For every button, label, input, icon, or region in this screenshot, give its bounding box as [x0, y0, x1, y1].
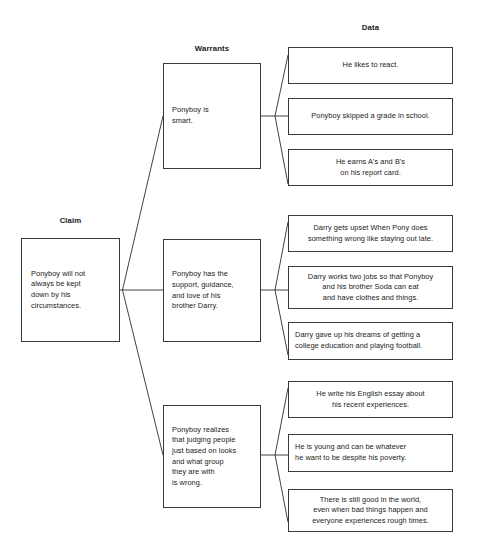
data-box-1-1-text: He likes to react. [295, 60, 446, 71]
data-box-3-3[interactable]: There is still good in the world, even w… [288, 489, 453, 532]
data-box-2-3-text: Darry gave up his dreams of getting a co… [295, 330, 446, 351]
connector-warrant-1-to-data-1 [275, 55, 288, 116]
claim-box-text: Ponyboy will not always be kept down by … [31, 269, 110, 311]
warrant-box-1[interactable]: Ponyboy is smart. [163, 63, 261, 169]
connector-warrant-3-to-data-3 [275, 455, 288, 522]
data-box-3-1-text: He write his English essay about his rec… [295, 389, 446, 410]
connector-warrant-2-to-data-3 [275, 290, 288, 355]
data-box-2-2-text: Darry works two jobs so that Ponyboy and… [295, 272, 446, 304]
data-box-1-1[interactable]: He likes to react. [288, 47, 453, 84]
data-box-2-1-text: Darry gets upset When Pony does somethin… [295, 223, 446, 244]
connector-claim-to-warrant-3 [123, 290, 164, 455]
claim-box[interactable]: Ponyboy will not always be kept down by … [21, 238, 120, 342]
warrant-box-2[interactable]: Ponyboy has the support, guidance, and l… [163, 239, 261, 342]
data-box-3-1[interactable]: He write his English essay about his rec… [288, 381, 453, 418]
warrant-box-2-text: Ponyboy has the support, guidance, and l… [172, 269, 252, 311]
data-box-2-2[interactable]: Darry works two jobs so that Ponyboy and… [288, 266, 453, 309]
column-header-data: Data [288, 23, 453, 32]
warrant-box-3-text: Ponyboy realizes that judging people jus… [172, 425, 252, 488]
data-box-2-3[interactable]: Darry gave up his dreams of getting a co… [288, 322, 453, 360]
column-header-warrants: Warrants [163, 44, 261, 53]
data-box-1-2-text: Ponyboy skipped a grade in school. [295, 111, 446, 122]
connector-warrant-2-to-data-1 [275, 222, 288, 290]
argument-diagram: Claim Warrants Data Ponyboy will not alw… [0, 0, 477, 553]
warrant-box-1-text: Ponyboy is smart. [172, 105, 252, 126]
connector-claim-to-warrant-1 [123, 116, 164, 290]
data-box-3-2-text: He is young and can be whatever he want … [295, 442, 446, 463]
data-box-1-3[interactable]: He earns A's and B's on his report card. [288, 149, 453, 186]
warrant-box-3[interactable]: Ponyboy realizes that judging people jus… [163, 405, 261, 508]
connector-warrant-1-to-data-3 [275, 116, 288, 184]
data-box-1-3-text: He earns A's and B's on his report card. [295, 157, 446, 178]
data-box-2-1[interactable]: Darry gets upset When Pony does somethin… [288, 215, 453, 252]
data-box-3-2[interactable]: He is young and can be whatever he want … [288, 434, 453, 472]
connector-warrant-3-to-data-1 [275, 388, 288, 455]
data-box-1-2[interactable]: Ponyboy skipped a grade in school. [288, 98, 453, 135]
data-box-3-3-text: There is still good in the world, even w… [295, 495, 446, 527]
column-header-claim: Claim [21, 216, 120, 225]
